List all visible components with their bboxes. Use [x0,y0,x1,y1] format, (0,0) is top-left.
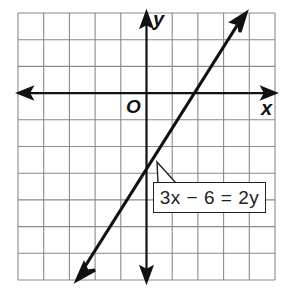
equation-label: 3x − 6 = 2y [153,182,266,213]
coordinate-graph [0,0,291,300]
y-axis-label: y [153,8,164,31]
line-down-arrow-icon [77,264,95,280]
x-axis-left-arrow-icon [18,88,32,99]
equation-text: 3x − 6 = 2y [160,187,260,209]
y-axis-up-arrow-icon [141,12,152,27]
label-pointer [157,162,176,183]
x-axis-label: x [261,97,272,120]
origin-label: O [126,96,141,118]
